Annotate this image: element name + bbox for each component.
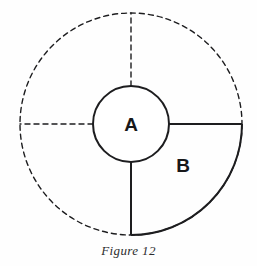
figure-caption: Figure 12: [0, 243, 257, 259]
geometry-diagram: A B: [0, 0, 257, 266]
label-a: A: [124, 114, 138, 135]
label-b: B: [176, 155, 190, 176]
figure-container: A B Figure 12: [0, 0, 257, 266]
